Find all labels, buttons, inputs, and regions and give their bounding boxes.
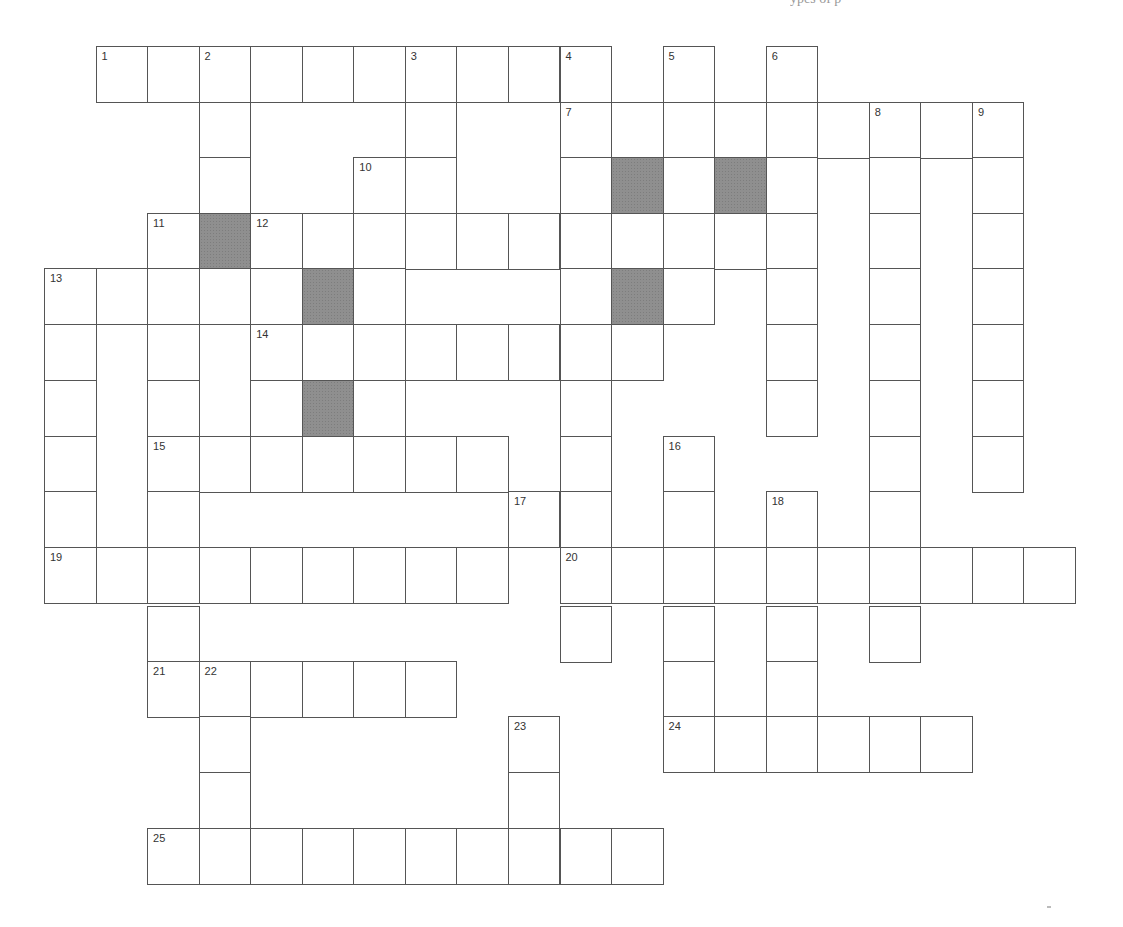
crossword-cell[interactable] <box>817 102 870 159</box>
crossword-cell[interactable] <box>714 547 767 604</box>
crossword-cell[interactable] <box>663 661 716 718</box>
crossword-cell[interactable] <box>353 324 406 381</box>
crossword-cell-17[interactable]: 17 <box>508 491 561 548</box>
crossword-cell[interactable] <box>560 268 613 325</box>
crossword-cell[interactable] <box>405 213 458 270</box>
crossword-cell[interactable] <box>663 268 716 325</box>
crossword-cell[interactable] <box>250 436 303 493</box>
crossword-cell[interactable] <box>302 213 355 270</box>
crossword-cell[interactable] <box>353 436 406 493</box>
crossword-cell[interactable] <box>199 157 252 214</box>
crossword-cell[interactable] <box>972 213 1025 270</box>
crossword-cell[interactable] <box>353 46 406 103</box>
crossword-cell[interactable] <box>302 828 355 885</box>
crossword-cell[interactable] <box>560 828 613 885</box>
crossword-cell[interactable] <box>405 661 458 718</box>
crossword-cell-11[interactable]: 11 <box>147 213 200 270</box>
crossword-cell[interactable] <box>405 828 458 885</box>
crossword-cell[interactable] <box>663 213 716 270</box>
crossword-cell[interactable] <box>560 606 613 663</box>
crossword-cell[interactable] <box>96 547 149 604</box>
crossword-cell[interactable] <box>147 606 200 663</box>
crossword-cell[interactable] <box>44 436 97 493</box>
crossword-cell[interactable] <box>199 436 252 493</box>
crossword-cell[interactable] <box>972 436 1025 493</box>
crossword-cell[interactable] <box>199 716 252 773</box>
crossword-cell[interactable] <box>869 380 922 437</box>
crossword-cell[interactable] <box>44 324 97 381</box>
crossword-cell[interactable] <box>972 324 1025 381</box>
crossword-cell[interactable] <box>817 716 870 773</box>
crossword-cell[interactable] <box>869 324 922 381</box>
crossword-cell[interactable] <box>611 828 664 885</box>
crossword-cell[interactable] <box>147 380 200 437</box>
crossword-cell[interactable] <box>456 436 509 493</box>
crossword-cell-4[interactable]: 4 <box>560 46 613 103</box>
crossword-cell[interactable] <box>920 716 973 773</box>
crossword-cell[interactable] <box>508 213 561 270</box>
crossword-cell-8[interactable]: 8 <box>869 102 922 159</box>
crossword-cell[interactable] <box>199 268 252 325</box>
crossword-cell[interactable] <box>405 436 458 493</box>
crossword-cell[interactable] <box>353 661 406 718</box>
crossword-cell[interactable] <box>147 547 200 604</box>
crossword-cell[interactable] <box>353 213 406 270</box>
crossword-cell[interactable] <box>869 547 922 604</box>
crossword-cell[interactable] <box>972 380 1025 437</box>
crossword-cell[interactable] <box>147 491 200 548</box>
crossword-cell[interactable] <box>766 716 819 773</box>
crossword-cell[interactable] <box>714 716 767 773</box>
crossword-cell[interactable] <box>766 324 819 381</box>
crossword-cell[interactable] <box>560 436 613 493</box>
crossword-cell[interactable] <box>611 102 664 159</box>
crossword-cell[interactable] <box>250 547 303 604</box>
crossword-cell[interactable] <box>302 46 355 103</box>
crossword-cell[interactable] <box>96 268 149 325</box>
crossword-cell[interactable] <box>972 157 1025 214</box>
crossword-cell[interactable] <box>869 157 922 214</box>
crossword-cell-15[interactable]: 15 <box>147 436 200 493</box>
crossword-cell[interactable] <box>302 324 355 381</box>
crossword-cell[interactable] <box>456 547 509 604</box>
crossword-cell[interactable] <box>302 661 355 718</box>
crossword-cell[interactable] <box>663 547 716 604</box>
crossword-cell[interactable] <box>972 268 1025 325</box>
crossword-cell[interactable] <box>302 547 355 604</box>
crossword-cell[interactable] <box>663 157 716 214</box>
crossword-cell[interactable] <box>869 268 922 325</box>
crossword-cell[interactable] <box>766 102 819 159</box>
crossword-cell[interactable] <box>560 380 613 437</box>
crossword-cell[interactable] <box>250 268 303 325</box>
crossword-cell[interactable] <box>663 491 716 548</box>
crossword-cell[interactable] <box>147 268 200 325</box>
crossword-cell[interactable] <box>147 46 200 103</box>
crossword-cell[interactable] <box>199 547 252 604</box>
crossword-cell[interactable] <box>766 213 819 270</box>
crossword-cell[interactable] <box>353 380 406 437</box>
crossword-cell[interactable] <box>302 436 355 493</box>
crossword-cell-25[interactable]: 25 <box>147 828 200 885</box>
crossword-cell-18[interactable]: 18 <box>766 491 819 548</box>
crossword-cell-7[interactable]: 7 <box>560 102 613 159</box>
crossword-cell-20[interactable]: 20 <box>560 547 613 604</box>
crossword-cell[interactable] <box>817 547 870 604</box>
crossword-cell-12[interactable]: 12 <box>250 213 303 270</box>
crossword-cell[interactable] <box>560 491 613 548</box>
crossword-cell-3[interactable]: 3 <box>405 46 458 103</box>
crossword-cell[interactable] <box>250 661 303 718</box>
crossword-cell[interactable] <box>456 828 509 885</box>
crossword-cell[interactable] <box>456 46 509 103</box>
crossword-cell[interactable] <box>920 102 973 159</box>
crossword-cell[interactable] <box>353 547 406 604</box>
crossword-cell[interactable] <box>199 828 252 885</box>
crossword-cell[interactable] <box>560 157 613 214</box>
crossword-cell[interactable] <box>611 213 664 270</box>
crossword-cell[interactable] <box>405 102 458 159</box>
crossword-cell-23[interactable]: 23 <box>508 716 561 773</box>
crossword-cell[interactable] <box>869 491 922 548</box>
crossword-cell[interactable] <box>611 547 664 604</box>
crossword-cell-2[interactable]: 2 <box>199 46 252 103</box>
crossword-cell[interactable] <box>766 380 819 437</box>
crossword-cell[interactable] <box>405 157 458 214</box>
crossword-cell-16[interactable]: 16 <box>663 436 716 493</box>
